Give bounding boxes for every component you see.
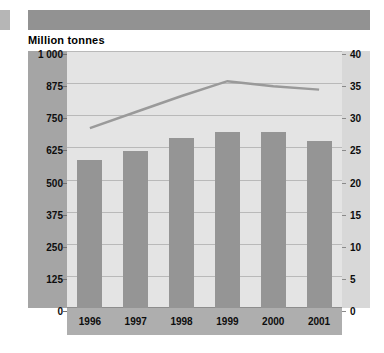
y-axis-left-tick-label: 750: [46, 113, 63, 124]
y-axis-right-tick-mark: [342, 279, 346, 280]
y-axis-right-tick-mark: [342, 150, 346, 151]
y-axis-right-tick-mark: [342, 183, 346, 184]
x-axis-label-1999: 1999: [205, 316, 251, 327]
y-axis-left-tick-label: 375: [46, 210, 63, 221]
y-axis-right-tick-label: 20: [350, 178, 361, 189]
x-axis-label-2001: 2001: [296, 316, 342, 327]
y-axis-left-tick-label: 500: [46, 178, 63, 189]
y-axis-left-tick-label: 125: [46, 274, 63, 285]
y-axis-left-tick-label: 875: [46, 81, 63, 92]
x-axis-label-1996: 1996: [67, 316, 113, 327]
x-axis-label-1998: 1998: [159, 316, 205, 327]
plot-area: [67, 51, 342, 308]
left-axis-column: 1 0008757506255003752501250: [28, 51, 67, 308]
y-axis-right-tick-label: 25: [350, 145, 361, 156]
y-axis-right-tick-mark: [342, 215, 346, 216]
page-title: Million tonnes: [28, 34, 105, 46]
y-axis-right-tick-label: 0: [350, 306, 356, 317]
y-axis-right-tick-mark: [342, 247, 346, 248]
left-edge-marker: [0, 10, 10, 30]
y-axis-left-tick-label: 625: [46, 145, 63, 156]
x-axis-label-1997: 1997: [113, 316, 159, 327]
header-band: [28, 10, 370, 30]
y-axis-right-tick-mark: [342, 86, 346, 87]
y-axis-right-tick-label: 30: [350, 113, 361, 124]
y-axis-right-tick-mark: [342, 311, 346, 312]
x-axis-band: 199619971998199920002001: [67, 308, 342, 335]
y-axis-right-tick-label: 5: [350, 274, 356, 285]
y-axis-left-tick-label: 1 000: [38, 49, 63, 60]
y-axis-right-tick-label: 35: [350, 81, 361, 92]
trend-line-series: [67, 51, 342, 308]
y-axis-right-tick-mark: [342, 118, 346, 119]
y-axis-right-tick-label: 10: [350, 242, 361, 253]
right-axis-column: 4035302520151050: [342, 51, 370, 308]
trend-line: [90, 81, 319, 128]
y-axis-right-tick-label: 15: [350, 210, 361, 221]
y-axis-left-tick-label: 250: [46, 242, 63, 253]
y-axis-right-tick-mark: [342, 54, 346, 55]
y-axis-right-tick-label: 40: [350, 49, 361, 60]
x-axis-label-2000: 2000: [250, 316, 296, 327]
chart-page: Million tonnes 1 00087575062550037525012…: [0, 0, 384, 353]
chart-frame: 1 0008757506255003752501250 403530252015…: [28, 51, 370, 313]
